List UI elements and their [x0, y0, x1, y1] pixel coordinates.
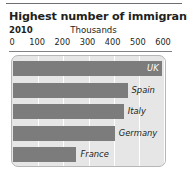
bar-label-germany: Germany [119, 127, 158, 140]
x-tick-500: 500 [130, 37, 146, 47]
bar-label-spain: Spain [132, 84, 155, 97]
x-tick-400: 400 [105, 37, 121, 47]
bar-row: UK [12, 61, 166, 76]
x-tick-200: 200 [55, 37, 71, 47]
bar-row: Germany [12, 126, 166, 141]
x-axis-tick-labels: 0100200300400500600 [0, 37, 187, 48]
bar-row: France [12, 147, 166, 162]
x-tick-300: 300 [80, 37, 96, 47]
bar-germany [13, 126, 115, 141]
bar-row: Italy [12, 104, 166, 119]
bar-spain [13, 83, 128, 98]
top-divider-rule [6, 3, 182, 4]
bar-row: Spain [12, 83, 166, 98]
bar-label-france: France [80, 148, 108, 161]
x-tick-600: 600 [155, 37, 171, 47]
axis-units-label: Thousands [0, 25, 187, 35]
plot-area: UKSpainItalyGermanyFrance [11, 55, 166, 167]
bars-layer: UKSpainItalyGermanyFrance [12, 56, 165, 166]
immigrants-bar-chart: Highest number of immigrants 2010 Thousa… [0, 0, 187, 173]
bar-uk [13, 61, 162, 76]
bar-label-uk: UK [147, 62, 159, 75]
x-axis-rule [9, 51, 172, 52]
chart-title: Highest number of immigrants [9, 11, 184, 23]
bar-label-italy: Italy [128, 105, 146, 118]
bar-italy [13, 104, 124, 119]
x-tick-0: 0 [9, 37, 14, 47]
x-tick-100: 100 [29, 37, 45, 47]
bar-france [13, 147, 76, 162]
